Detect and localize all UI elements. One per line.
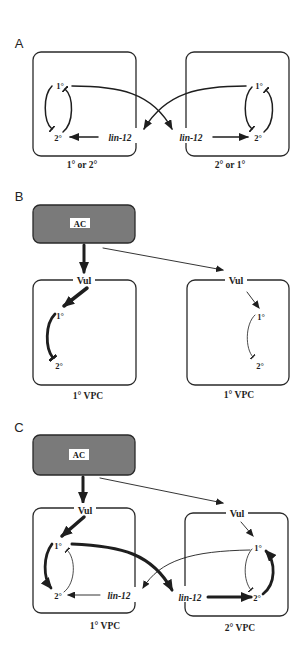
panel-a: A 1° 2° lin-12 1° 2° lin-12 1° or 2° 2° …	[15, 36, 289, 170]
cell-caption-right: 2° or 1°	[215, 160, 246, 170]
node-2-left: 2°	[54, 133, 62, 143]
lateral-signal-arrow	[72, 86, 172, 129]
cell-box-right	[187, 280, 289, 385]
panel-letter-a: A	[15, 36, 24, 51]
inhibition-arc	[264, 90, 273, 132]
panel-b: B AC Vul Vul 1° 2° 1° 2° 1° VPC 1° VPC	[15, 189, 289, 401]
lateral-signal-arrow	[144, 86, 246, 129]
weak-signal-arrow	[100, 478, 223, 503]
vul-signal-right: Vul	[230, 508, 245, 519]
weak-vul-arrow	[241, 522, 253, 536]
node-2-right: 2°	[254, 133, 262, 143]
vul-signal-left: Vul	[77, 275, 92, 286]
cell-caption-left: 1° VPC	[90, 621, 120, 631]
strong-lateral-signal-arrow	[72, 544, 172, 590]
gene-label-right: lin-12	[179, 133, 202, 143]
anchor-cell-label: AC	[74, 219, 86, 229]
strong-activation-arc	[45, 544, 52, 588]
weak-inhibition-arc	[64, 550, 73, 592]
anchor-cell-label: AC	[73, 450, 85, 460]
weak-lateral-signal-arrow	[143, 550, 250, 588]
vul-signal-right: Vul	[229, 275, 244, 286]
node-2-right: 2°	[256, 361, 264, 371]
node-1-right: 1°	[255, 81, 263, 91]
node-1-right: 1°	[254, 543, 262, 553]
gene-label-right: lin-12	[178, 593, 201, 603]
panel-letter-b: B	[15, 189, 24, 204]
inhibition-arc	[45, 86, 52, 129]
cell-caption-right: 2° VPC	[225, 623, 255, 633]
node-2-left: 2°	[54, 591, 62, 601]
cell-caption-left: 1° or 2°	[67, 160, 98, 170]
strong-vul-arrow	[62, 517, 84, 536]
node-2-right: 2°	[253, 593, 261, 603]
node-1-left: 1°	[56, 81, 64, 91]
panel-letter-c: C	[14, 420, 23, 435]
node-1-left: 1°	[56, 311, 64, 321]
node-1-right: 1°	[257, 312, 265, 322]
node-1-left: 1°	[54, 541, 62, 551]
cell-caption-left: 1° VPC	[73, 391, 103, 401]
strong-vul-arrow	[64, 288, 87, 306]
vulval-induction-diagram: A 1° 2° lin-12 1° 2° lin-12 1° or 2° 2° …	[0, 0, 307, 648]
gene-label-left: lin-12	[107, 591, 130, 601]
gene-label-left: lin-12	[108, 133, 131, 143]
node-2-left: 2°	[55, 361, 63, 371]
weak-inhibition-arc	[245, 549, 252, 590]
strong-inhibition-arc	[47, 314, 55, 358]
panel-c: C AC Vul Vul 1° 2° lin-12 1° 2° lin-12	[14, 420, 288, 633]
weak-inhibition-arc	[247, 315, 255, 357]
edge-gap	[132, 128, 140, 143]
inhibition-arc	[245, 87, 252, 129]
cell-caption-right: 1° VPC	[224, 390, 254, 400]
edge-gap	[131, 587, 139, 602]
weak-signal-arrow	[103, 248, 223, 270]
inhibition-arc	[63, 89, 72, 132]
vul-signal-left: Vul	[78, 505, 93, 516]
strong-activation-arc	[263, 551, 273, 594]
weak-vul-arrow	[247, 292, 259, 308]
